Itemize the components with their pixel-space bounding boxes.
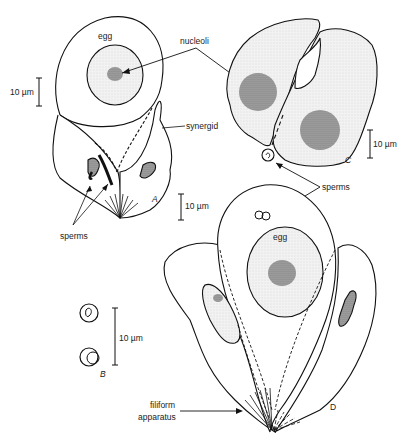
synergid-leader xyxy=(162,126,185,128)
scale-label-b: 10 µm xyxy=(119,334,143,343)
panel-c xyxy=(227,19,377,166)
label-sperms-cd: sperms xyxy=(322,183,350,192)
scale-label-c: 10 µm xyxy=(373,140,397,149)
label-egg-d: egg xyxy=(273,233,287,242)
panel-letter-a: A xyxy=(152,195,158,204)
panel-letter-d: D xyxy=(330,403,336,412)
scale-label-a-left: 10 µm xyxy=(10,88,34,97)
panel-d xyxy=(164,185,376,432)
sperm-c xyxy=(262,149,274,161)
panel-letter-b: B xyxy=(100,370,106,379)
synergid-left-a xyxy=(53,115,121,218)
nucleolus-c-right xyxy=(300,110,340,150)
panel-b xyxy=(80,304,99,366)
label-synergid: synergid xyxy=(186,122,218,131)
panel-a xyxy=(53,17,172,218)
embryo-sac-diagram xyxy=(0,0,403,442)
label-apparatus: apparatus xyxy=(138,413,176,422)
nucleolus-d xyxy=(268,260,296,286)
label-filiform: filiform xyxy=(150,401,175,410)
label-sperms-a: sperms xyxy=(60,232,88,241)
scale-label-a-right: 10 µm xyxy=(185,202,209,211)
label-nucleoli: nucleoli xyxy=(180,37,209,46)
nucleolus-c-left xyxy=(239,73,277,111)
panel-letter-c: C xyxy=(345,156,351,165)
nucleolus-a xyxy=(107,67,123,81)
label-egg-a: egg xyxy=(98,32,112,41)
